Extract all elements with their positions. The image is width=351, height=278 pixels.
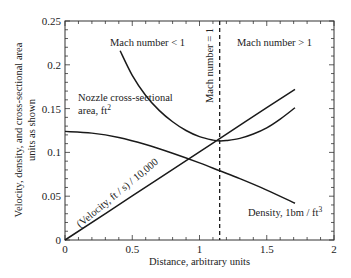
area-label-line2: area, ft2 [78,103,111,116]
nozzle-flow-chart: 00.511.5200.050.10.150.20.25 Mach number… [0,0,351,278]
area-label-line1: Nozzle cross-sectional [78,92,173,103]
mach-equal-one-label: Mach number = 1 [204,28,215,103]
y-axis-title-line2: units as shown [26,98,37,161]
density-curve [65,131,295,203]
x-axis-title: Distance, arbitrary units [149,256,250,267]
y-axis-title-line1: Velocity, density, and cross-sectional a… [13,42,24,217]
y-tick-label: 0.1 [47,146,61,158]
x-tick-label: 1 [197,243,203,255]
mach-less-than-one-label: Mach number < 1 [110,37,185,48]
y-tick-label: 0.05 [42,190,62,202]
density-label: Density, 1bm / ft3 [248,205,322,218]
y-tick-label: 0.15 [42,103,62,115]
y-tick-label: 0.25 [42,15,62,27]
x-tick-label: 0 [62,243,68,255]
x-tick-label: 2 [331,243,337,255]
x-tick-label: 1.5 [260,243,274,255]
mach-greater-than-one-label: Mach number > 1 [237,37,312,48]
y-tick-label: 0.2 [47,59,61,71]
x-tick-label: 0.5 [125,243,139,255]
velocity-label: (Velocity, ft / s) / 10,000 [74,156,161,230]
y-tick-label: 0 [56,234,62,246]
